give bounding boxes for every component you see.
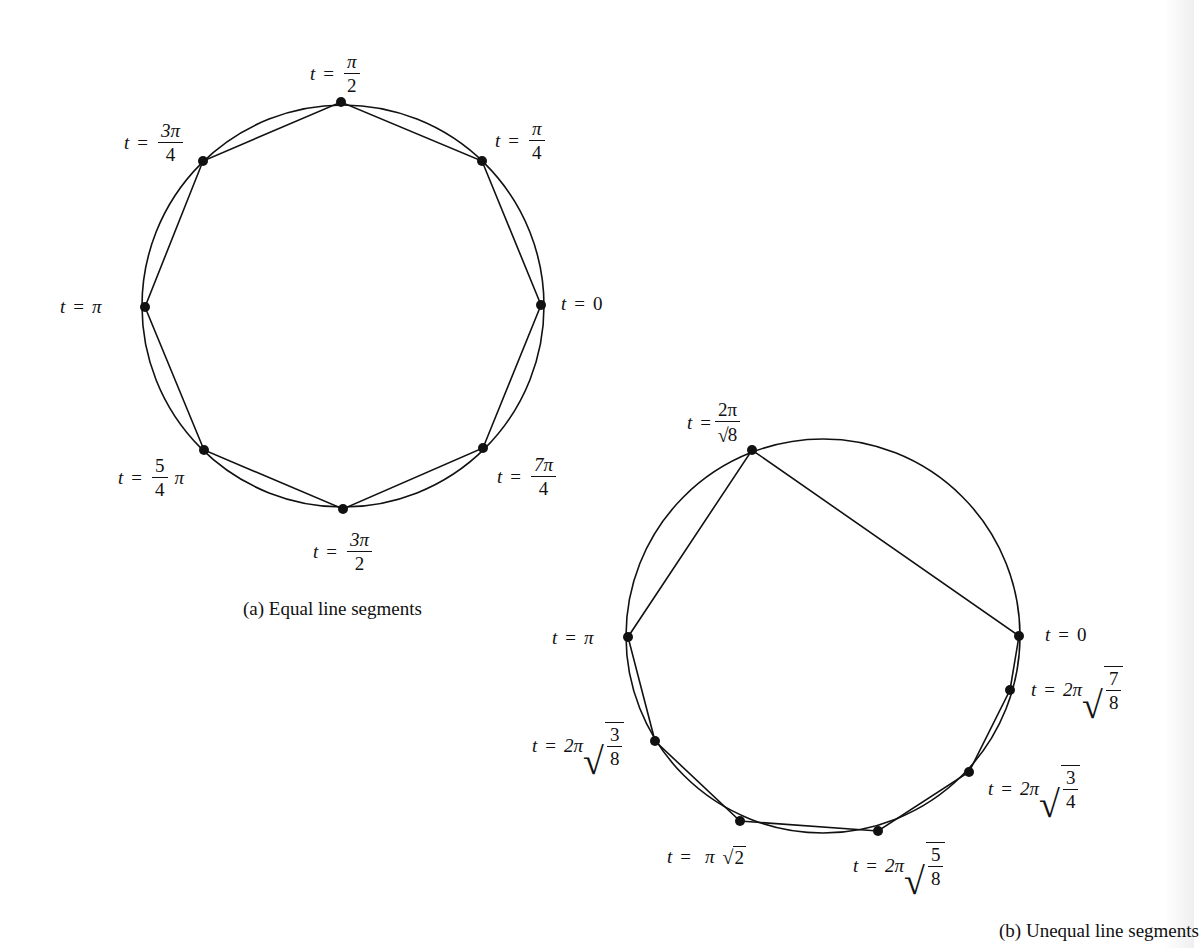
two-pi: 2π [1063, 680, 1082, 699]
fraction: 7 8 [1104, 666, 1124, 712]
label-b-t-pi-root-2: t = π √ 2 [667, 846, 746, 867]
label-a-t-3pi-over-4: t = 3π 4 [124, 121, 185, 164]
two-pi: 2π [885, 856, 904, 875]
sqrt-denominator: √ 8 [718, 422, 737, 444]
label-b-t-0: t = 0 [1045, 625, 1087, 644]
numerator: 7π [531, 455, 556, 477]
label-a-t-3pi-over-2: t = 3π 2 [313, 530, 374, 573]
fraction: 5 8 [926, 842, 946, 888]
denominator: 8 [610, 747, 620, 768]
points-a [140, 97, 546, 514]
var-t: t [118, 468, 123, 487]
equals: = [326, 542, 337, 561]
point-2pi_rt7_8 [1005, 685, 1015, 695]
var-t: t [313, 542, 318, 561]
var-t: t [1045, 625, 1050, 644]
equals: = [545, 736, 556, 755]
label-b-t-2pi-root-5-8: t = 2π √ 5 8 [853, 842, 947, 888]
point-pi [140, 302, 150, 312]
label-a-t-pi: t = π [60, 297, 102, 316]
point-2pi_rt3_4 [964, 767, 974, 777]
radicand: 8 [728, 425, 738, 444]
label-a-t-0: t = 0 [561, 294, 603, 313]
numerator: 3 [607, 725, 623, 747]
numerator: π [529, 119, 545, 141]
equals: = [1001, 779, 1012, 798]
label-a-t-pi-over-4: t = π 4 [495, 119, 547, 162]
radical-sign: √ [583, 742, 604, 780]
point-3pi4 [198, 156, 208, 166]
denominator: 2 [347, 74, 357, 95]
fraction: 3π 2 [347, 530, 372, 573]
var-t: t [552, 628, 557, 647]
sqrt: √ 3 4 [1039, 765, 1082, 811]
point-t0 [536, 300, 546, 310]
var-t: t [687, 413, 692, 432]
numerator: 2π [715, 400, 740, 422]
label-a-t-5-over-4-pi: t = 5 4 π [118, 456, 184, 499]
point-pi4 [477, 156, 487, 166]
sqrt: √ 5 8 [904, 842, 947, 888]
fraction: π 4 [529, 119, 545, 162]
fraction: 2π √ 8 [715, 400, 740, 444]
var-t: t [532, 736, 537, 755]
numerator: 7 [1106, 669, 1122, 691]
var-t: t [310, 64, 315, 83]
denominator: 4 [532, 141, 542, 162]
numerator: 5 [152, 456, 168, 478]
point-pi_rt2 [735, 816, 745, 826]
equals: = [323, 64, 334, 83]
radical-sign: √ [1082, 686, 1103, 724]
circle-b [626, 439, 1020, 833]
equals: = [1058, 625, 1069, 644]
numerator: 5 [928, 845, 944, 867]
label-a-t-pi-over-2: t = π 2 [310, 52, 362, 95]
equals: = [866, 856, 877, 875]
point-3pi2 [338, 504, 348, 514]
equals: = [510, 467, 521, 486]
denominator: 4 [1066, 790, 1076, 811]
point-7pi4 [478, 443, 488, 453]
numerator: 3 [1063, 768, 1079, 790]
var-t: t [988, 779, 993, 798]
equals: = [680, 847, 691, 866]
figure-b-unequal-segments [623, 439, 1024, 836]
zero: 0 [593, 294, 603, 313]
pi: π [175, 468, 185, 487]
point-2pi_rt3_8 [650, 736, 660, 746]
fraction: 5 4 [152, 456, 168, 499]
equals: = [131, 468, 142, 487]
numerator: 3π [158, 121, 183, 143]
equals: = [137, 133, 148, 152]
var-t: t [495, 131, 500, 150]
denominator: 2 [355, 552, 365, 573]
radical-sign: √ [904, 862, 925, 900]
sqrt: √ 3 8 [583, 722, 626, 768]
fraction: 3π 4 [158, 121, 183, 164]
fraction: 3 8 [605, 722, 625, 768]
sqrt: √ 7 8 [1082, 666, 1125, 712]
equals: = [574, 294, 585, 313]
point-2pi_rt8 [747, 445, 757, 455]
two-pi: 2π [1020, 779, 1039, 798]
denominator: 4 [539, 477, 549, 498]
sqrt: √ 2 [723, 846, 746, 867]
caption-a: (a) Equal line segments [243, 598, 422, 620]
label-a-t-7pi-over-4: t = 7π 4 [497, 455, 558, 498]
var-t: t [60, 297, 65, 316]
label-b-t-2pi-root-3-8: t = 2π √ 3 8 [532, 722, 626, 768]
equals: = [1044, 680, 1055, 699]
caption-b: (b) Unequal line segments [999, 920, 1199, 942]
pi: π [705, 847, 715, 866]
zero: 0 [1077, 625, 1087, 644]
var-t: t [497, 467, 502, 486]
fraction: π 2 [344, 52, 360, 95]
denominator: 4 [166, 143, 176, 164]
numerator: π [344, 52, 360, 74]
radical-sign: √ [723, 847, 734, 867]
numerator: 3π [347, 530, 372, 552]
label-b-t-pi: t = π [552, 628, 594, 647]
var-t: t [561, 294, 566, 313]
equals: = [565, 628, 576, 647]
label-b-t-2pi-over-root8: t = 2π √ 8 [687, 400, 742, 444]
